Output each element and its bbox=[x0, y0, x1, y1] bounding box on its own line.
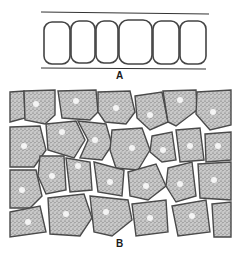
cell-illustration bbox=[0, 0, 241, 255]
tissue-cell bbox=[66, 158, 92, 192]
filament-cell bbox=[153, 21, 179, 64]
panel-label-a: A bbox=[116, 70, 123, 81]
nucleus bbox=[25, 219, 31, 225]
filament-cell bbox=[96, 21, 118, 63]
tissue-cell bbox=[10, 91, 25, 122]
nucleus bbox=[33, 101, 39, 107]
filament-wall-top bbox=[41, 12, 209, 14]
nucleus bbox=[113, 105, 119, 111]
panel-b-tissue bbox=[10, 90, 231, 237]
nucleus bbox=[49, 173, 55, 179]
nucleus bbox=[73, 98, 79, 104]
nucleus bbox=[21, 143, 27, 149]
nucleus bbox=[143, 183, 149, 189]
nucleus bbox=[129, 145, 135, 151]
nucleus bbox=[103, 209, 109, 215]
panel-a-filament bbox=[41, 12, 209, 69]
nucleus bbox=[75, 163, 81, 169]
nucleus bbox=[177, 181, 183, 187]
nucleus bbox=[210, 109, 216, 115]
panel-label-b: B bbox=[116, 238, 123, 249]
nucleus bbox=[177, 97, 183, 103]
nucleus bbox=[160, 147, 166, 153]
tissue-cell bbox=[24, 90, 55, 124]
nucleus bbox=[63, 211, 69, 217]
nucleus bbox=[211, 177, 217, 183]
filament-wall-bottom bbox=[41, 68, 206, 69]
filament-cells bbox=[44, 20, 206, 64]
tissue-cell bbox=[58, 90, 98, 120]
nucleus bbox=[92, 137, 98, 143]
tissue-cell bbox=[212, 202, 231, 237]
nucleus bbox=[147, 112, 153, 118]
filament-cell bbox=[71, 21, 95, 63]
filament-cell bbox=[119, 20, 152, 64]
nucleus bbox=[189, 213, 195, 219]
nucleus bbox=[107, 179, 113, 185]
filament-cell bbox=[44, 22, 70, 64]
nucleus bbox=[187, 143, 193, 149]
filament-cell bbox=[180, 21, 206, 64]
nucleus bbox=[215, 143, 221, 149]
nucleus bbox=[59, 129, 65, 135]
nucleus bbox=[147, 215, 153, 221]
nucleus bbox=[19, 187, 25, 193]
